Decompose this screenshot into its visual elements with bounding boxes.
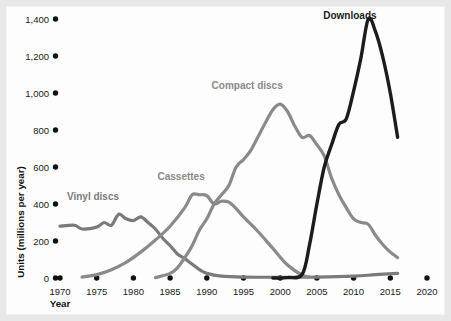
y-tick-dot — [53, 90, 58, 95]
x-tick-label: 1995 — [233, 286, 254, 297]
series-lines — [60, 18, 398, 278]
series-line-vinyl-discs — [60, 214, 398, 277]
x-tick-label: 1980 — [123, 286, 144, 297]
x-tick-dot — [131, 275, 136, 280]
x-tick-label: 2020 — [416, 286, 437, 297]
y-tick-label: 600 — [33, 162, 49, 173]
x-tick-label: 2015 — [380, 286, 401, 297]
series-label-downloads: Downloads — [323, 10, 377, 21]
x-tick-label: 1975 — [86, 286, 107, 297]
y-tick-dot — [53, 201, 58, 206]
x-tick-dot — [167, 275, 172, 280]
y-axis-tick-dots — [53, 16, 58, 280]
x-tick-label: 2000 — [270, 286, 291, 297]
series-label-vinyl-discs: Vinyl discs — [67, 191, 120, 202]
y-tick-label: 1,400 — [25, 14, 49, 25]
y-tick-dot — [53, 16, 58, 21]
x-tick-label: 1985 — [160, 286, 181, 297]
series-label-cassettes: Cassettes — [157, 171, 205, 182]
y-axis-title: Units (millions per year) — [15, 166, 26, 278]
y-axis-tick-labels: 02004006008001,0001,2001,400 — [25, 14, 49, 284]
chart-figure: 02004006008001,0001,2001,400 19701975198… — [7, 7, 444, 314]
y-tick-label: 1,200 — [25, 51, 49, 62]
x-tick-label: 1990 — [196, 286, 217, 297]
y-tick-label: 200 — [33, 236, 49, 247]
y-tick-dot — [53, 164, 58, 169]
series-label-compact-discs: Compact discs — [212, 80, 284, 91]
x-tick-label: 2005 — [306, 286, 327, 297]
x-tick-dot — [388, 275, 393, 280]
y-tick-label: 800 — [33, 125, 49, 136]
y-tick-label: 400 — [33, 199, 49, 210]
x-axis-title: Year — [50, 298, 71, 309]
y-tick-label: 1,000 — [25, 88, 49, 99]
y-tick-dot — [53, 53, 58, 58]
y-tick-dot — [53, 238, 58, 243]
y-tick-label: 0 — [44, 273, 49, 284]
x-tick-label: 2010 — [343, 286, 364, 297]
x-tick-dot — [204, 275, 209, 280]
x-tick-label: 1970 — [49, 286, 70, 297]
x-tick-dot — [57, 275, 62, 280]
y-tick-dot — [53, 127, 58, 132]
x-axis-tick-labels: 1970197519801985199019952000200520102015… — [49, 286, 437, 297]
music-formats-line-chart: 02004006008001,0001,2001,400 19701975198… — [7, 7, 444, 314]
x-tick-dot — [424, 275, 429, 280]
